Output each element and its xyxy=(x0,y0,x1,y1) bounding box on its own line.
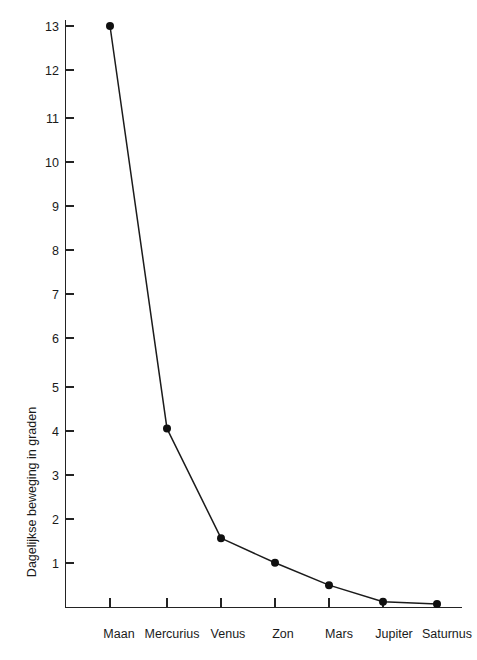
x-tick-label-saturnus: Saturnus xyxy=(422,627,472,641)
data-point-maan xyxy=(106,22,114,30)
data-point-saturnus xyxy=(433,600,441,608)
x-tick-label-zon: Zon xyxy=(272,627,294,641)
line-chart: Dagelijkse beweging in graden 13 12 11 1… xyxy=(0,0,477,660)
y-tick-label: 3 xyxy=(52,469,59,483)
y-tick-label: 1 xyxy=(52,557,59,571)
chart-canvas: Dagelijkse beweging in graden 13 12 11 1… xyxy=(0,0,477,660)
x-tick-label-maan: Maan xyxy=(103,627,134,641)
data-point-mars xyxy=(325,581,333,589)
y-tick-label: 9 xyxy=(52,200,59,214)
data-series xyxy=(106,22,441,608)
y-tick-label: 6 xyxy=(52,332,59,346)
y-axis-title: Dagelijkse beweging in graden xyxy=(25,407,39,577)
series-line xyxy=(110,26,437,604)
data-point-zon xyxy=(271,559,279,567)
data-point-mercurius xyxy=(163,425,171,433)
y-tick-label: 5 xyxy=(52,381,59,395)
y-tick-label: 12 xyxy=(45,64,59,78)
series-markers xyxy=(106,22,441,608)
x-tick-label-jupiter: Jupiter xyxy=(375,627,413,641)
y-tick-label: 11 xyxy=(46,112,59,126)
y-tick-label: 4 xyxy=(52,425,59,439)
x-axis-ticks: Maan Mercurius Venus Zon Mars Jupiter Sa… xyxy=(103,598,472,641)
x-tick-label-venus: Venus xyxy=(211,627,246,641)
data-point-venus xyxy=(217,534,225,542)
x-tick-label-mercurius: Mercurius xyxy=(145,627,200,641)
y-tick-label: 8 xyxy=(52,244,59,258)
y-axis-ticks: 13 12 11 10 9 8 7 6 5 4 3 2 1 xyxy=(45,20,74,571)
y-tick-label: 10 xyxy=(45,156,59,170)
y-tick-label: 7 xyxy=(52,288,59,302)
x-tick-label-mars: Mars xyxy=(325,627,353,641)
data-point-jupiter xyxy=(379,598,387,606)
y-tick-label: 2 xyxy=(52,513,59,527)
y-tick-label: 13 xyxy=(45,20,59,34)
